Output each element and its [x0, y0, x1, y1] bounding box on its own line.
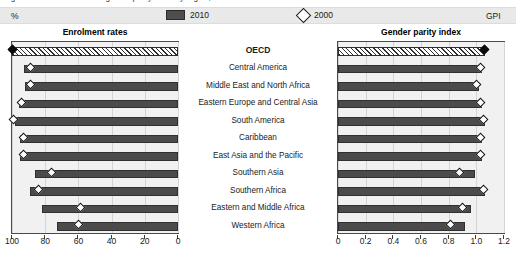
- chart-row-east-asia-and-the-pacific[interactable]: [338, 148, 504, 166]
- tick-label-right-4: 0.8: [443, 236, 455, 246]
- chart-legend: 2010 2000: [0, 7, 516, 24]
- category-label-caribbean: Caribbean: [180, 129, 336, 147]
- category-label-oecd: OECD: [180, 42, 336, 60]
- category-label-south-america: South America: [180, 112, 336, 130]
- left-chart-title: Enrolment rates: [12, 27, 178, 37]
- tick-label-right-6: 1.2: [498, 236, 510, 246]
- tick-label-left-4: 20: [140, 236, 149, 246]
- chart-row-middle-east-and-north-africa[interactable]: [12, 78, 178, 96]
- diamond-outline-icon: [296, 8, 312, 24]
- category-label-western-africa: Western Africa: [180, 217, 336, 235]
- category-label-middle-east-and-north-africa: Middle East and North Africa: [180, 77, 336, 95]
- bar-2010-southern-africa[interactable]: [338, 187, 485, 196]
- bar-2010-caribbean[interactable]: [20, 135, 178, 144]
- enrolment-rates-plot-panel: [11, 41, 179, 234]
- bar-2010-eastern-europe-and-central-asia[interactable]: [338, 100, 482, 109]
- chart-row-south-america[interactable]: [12, 113, 178, 131]
- category-label-east-asia-and-the-pacific: East Asia and the Pacific: [180, 147, 336, 165]
- category-label-southern-africa: Southern Africa: [180, 182, 336, 200]
- bar-2010-southern-asia[interactable]: [35, 170, 178, 179]
- chart-row-caribbean[interactable]: [338, 130, 504, 148]
- chart-row-eastern-and-middle-africa[interactable]: [338, 200, 504, 218]
- gender-parity-plot-area: [338, 42, 504, 233]
- tick-label-right-2: 0.4: [387, 236, 399, 246]
- tick-label-right-5: 1.0: [470, 236, 482, 246]
- figure-caption-strip: Figure: Enrolment rates and gender parit…: [0, 0, 516, 7]
- tick-label-right-0: 0: [336, 236, 341, 246]
- tick-label-right-1: 0.2: [360, 236, 372, 246]
- tick-label-left-2: 60: [74, 236, 83, 246]
- category-label-eastern-and-middle-africa: Eastern and Middle Africa: [180, 199, 336, 217]
- chart-row-middle-east-and-north-africa[interactable]: [338, 78, 504, 96]
- chart-row-oecd[interactable]: [338, 43, 504, 61]
- tick-label-left-5: 0: [176, 236, 181, 246]
- bar-2010-east-asia-and-the-pacific[interactable]: [338, 152, 482, 161]
- bar-2010-south-america[interactable]: [338, 117, 485, 126]
- bar-2010-eastern-and-middle-africa[interactable]: [338, 205, 471, 214]
- bar-2010-southern-africa[interactable]: [30, 187, 178, 196]
- bar-2010-oecd[interactable]: [12, 47, 178, 56]
- left-chart-unit-label: %: [11, 11, 19, 21]
- bar-swatch-icon: [166, 10, 185, 20]
- enrolment-rates-plot-area: [12, 42, 178, 233]
- tick-label-left-1: 80: [40, 236, 49, 246]
- bar-2010-middle-east-and-north-africa[interactable]: [338, 82, 479, 91]
- legend-item-2000[interactable]: 2000: [298, 10, 333, 21]
- chart-row-western-africa[interactable]: [338, 218, 504, 236]
- right-chart-unit-label: GPI: [486, 11, 501, 21]
- legend-label-2010: 2010: [190, 11, 209, 20]
- category-label-eastern-europe-and-central-asia: Eastern Europe and Central Asia: [180, 94, 336, 112]
- chart-row-central-america[interactable]: [12, 60, 178, 78]
- right-chart-x-axis: 00.20.40.60.81.01.2: [337, 236, 505, 248]
- tick-label-right-3: 0.6: [415, 236, 427, 246]
- category-label-column: OECDCentral AmericaMiddle East and North…: [180, 41, 336, 234]
- category-label-central-america: Central America: [180, 59, 336, 77]
- chart-row-caribbean[interactable]: [12, 130, 178, 148]
- bar-2010-eastern-europe-and-central-asia[interactable]: [19, 100, 178, 109]
- right-chart-title: Gender parity index: [338, 27, 504, 37]
- chart-row-oecd[interactable]: [12, 43, 178, 61]
- chart-row-southern-asia[interactable]: [12, 165, 178, 183]
- bar-2010-caribbean[interactable]: [338, 135, 482, 144]
- chart-row-western-africa[interactable]: [12, 218, 178, 236]
- chart-row-east-asia-and-the-pacific[interactable]: [12, 148, 178, 166]
- gridline-left-5: [178, 42, 179, 233]
- chart-row-central-america[interactable]: [338, 60, 504, 78]
- left-chart-x-axis: 100806040200: [11, 236, 179, 248]
- bar-2010-oecd[interactable]: [338, 47, 485, 56]
- chart-row-southern-asia[interactable]: [338, 165, 504, 183]
- bar-2010-south-america[interactable]: [15, 117, 178, 126]
- bar-2010-eastern-and-middle-africa[interactable]: [42, 205, 178, 214]
- category-label-southern-asia: Southern Asia: [180, 164, 336, 182]
- chart-row-south-america[interactable]: [338, 113, 504, 131]
- chart-row-eastern-and-middle-africa[interactable]: [12, 200, 178, 218]
- figure-caption-text: Figure: Enrolment rates and gender parit…: [4, 0, 266, 2]
- chart-row-eastern-europe-and-central-asia[interactable]: [338, 95, 504, 113]
- gender-parity-plot-panel: [337, 41, 505, 234]
- bar-2010-central-america[interactable]: [24, 65, 178, 74]
- chart-row-eastern-europe-and-central-asia[interactable]: [12, 95, 178, 113]
- bar-2010-middle-east-and-north-africa[interactable]: [25, 82, 178, 91]
- tick-label-left-0: 100: [5, 236, 19, 246]
- tick-label-left-3: 40: [107, 236, 116, 246]
- bar-2010-east-asia-and-the-pacific[interactable]: [20, 152, 178, 161]
- legend-label-2000: 2000: [314, 11, 333, 20]
- chart-row-southern-africa[interactable]: [338, 183, 504, 201]
- bar-2010-central-america[interactable]: [338, 65, 482, 74]
- gridline-right-6: [504, 42, 505, 233]
- chart-row-southern-africa[interactable]: [12, 183, 178, 201]
- legend-item-2010[interactable]: 2010: [166, 10, 209, 20]
